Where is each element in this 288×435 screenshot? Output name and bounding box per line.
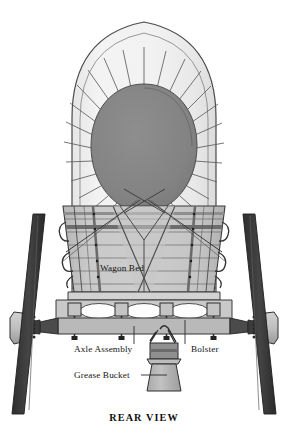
- grease-bucket: [147, 326, 181, 391]
- wagon-illustration: Wagon Bed Axle Assembly Bolster Grease B…: [0, 0, 288, 435]
- label-grease-bucket: Grease Bucket: [74, 370, 130, 380]
- label-wagon-bed: Wagon Bed: [100, 263, 144, 273]
- label-axle-assembly: Axle Assembly: [74, 344, 133, 354]
- wagon-rear-view-figure: Wagon Bed Axle Assembly Bolster Grease B…: [0, 0, 288, 435]
- wagon-bed: [59, 189, 229, 300]
- puckered-opening: [91, 84, 197, 212]
- figure-caption: REAR VIEW: [109, 412, 178, 423]
- label-bolster: Bolster: [191, 344, 219, 354]
